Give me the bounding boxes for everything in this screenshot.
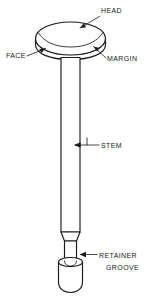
callout-label-margin: MARGIN <box>107 55 137 62</box>
callout-label-groove: GROOVE <box>106 264 139 271</box>
valve-drawing <box>36 22 106 293</box>
valve-diagram: HEAD FACE MARGIN STEM RETAINER GROOVE <box>0 0 151 301</box>
valve-stem-taper <box>61 232 80 241</box>
retainer-groove-arrow-icon <box>80 252 87 258</box>
callout-label-retainer: RETAINER <box>99 252 137 259</box>
valve-tip-shoulder <box>59 258 83 267</box>
callout-label-head: HEAD <box>101 7 122 14</box>
callout-label-face: FACE <box>6 52 26 59</box>
valve-head-face <box>36 22 106 55</box>
callout-label-stem: STEM <box>101 142 122 149</box>
